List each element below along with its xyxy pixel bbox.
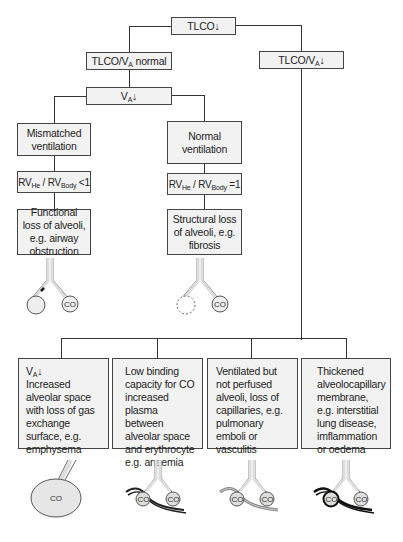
node-functional-loss-alveoli: Functional loss of alveoli, e.g. airway …	[17, 209, 91, 255]
node-label: RVHe / RVBody =1	[169, 178, 241, 191]
connector	[54, 96, 55, 124]
connector	[54, 155, 55, 171]
node-label: Mismatched ventilation	[22, 127, 86, 153]
node-label: VA↓	[121, 90, 137, 103]
root-node-tlco-decreased: TLCO↓	[171, 17, 236, 35]
co-label: CO	[50, 494, 62, 503]
node-rv-ratio-less-than-1: RVHe / RVBody <1	[17, 171, 91, 193]
co-label: CO	[214, 300, 226, 309]
cause-text: Ventilated but not perfused alveoli, los…	[216, 365, 292, 456]
cause-text: Thickened alveolocapillary membrane, e.g…	[317, 365, 386, 456]
connector	[129, 26, 172, 27]
node-label: TLCO/VA normal	[92, 55, 167, 68]
node-label: Functional loss of alveoli, e.g. airway …	[21, 206, 87, 258]
node-rv-ratio-equal-1: RVHe / RVBody =1	[167, 173, 242, 195]
connector	[61, 338, 346, 339]
node-label: TLCO/VA↓	[278, 54, 324, 67]
connector	[157, 338, 158, 358]
cause-interstitial-lung-disease: Thickened alveolocapillary membrane, e.g…	[301, 358, 391, 449]
node-label: TLCO↓	[187, 20, 219, 33]
unperfused-alveoli-icon: CO CO	[218, 460, 288, 522]
connector	[204, 194, 205, 209]
node-tlco-va-normal: TLCO/VA normal	[86, 52, 172, 70]
airway-obstruction-alveoli-icon: CO	[20, 258, 100, 320]
node-normal-ventilation: Normal ventilation	[167, 121, 242, 164]
node-label: RVHe / RVBody <1	[18, 176, 90, 189]
alveoli-capillary-icon: CO CO	[124, 460, 194, 522]
cause-heading: VA↓	[26, 365, 42, 378]
node-tlco-va-decreased: TLCO/VA↓	[259, 51, 344, 69]
connector	[129, 26, 130, 53]
co-label: CO	[64, 300, 76, 309]
connector	[251, 338, 252, 358]
node-structural-loss-alveoli: Structural loss of alveoli, e.g. fibrosi…	[167, 209, 242, 255]
co-label: CO	[168, 495, 180, 504]
connector	[346, 338, 347, 358]
co-label: CO	[232, 495, 244, 504]
connector	[301, 69, 302, 340]
connector	[204, 163, 205, 173]
co-label: CO	[138, 495, 150, 504]
connector	[61, 338, 62, 358]
connector	[204, 95, 205, 121]
node-va-decreased: VA↓	[86, 87, 172, 105]
cause-pulmonary-emboli: Ventilated but not perfused alveoli, los…	[207, 358, 298, 449]
node-label: Structural loss of alveoli, e.g. fibrosi…	[172, 213, 237, 252]
cause-anaemia: Low binding capacity for CO increased pl…	[112, 358, 203, 449]
thickened-membrane-icon: CO CO	[312, 460, 382, 522]
cause-emphysema: VA↓ Increased alveolar space with loss o…	[18, 358, 109, 449]
co-label: CO	[326, 495, 338, 504]
enlarged-alveolus-icon: CO	[28, 460, 88, 522]
co-label: CO	[262, 495, 274, 504]
lost-alveolus-icon: CO	[170, 258, 250, 320]
node-mismatched-ventilation: Mismatched ventilation	[17, 123, 91, 156]
connector	[171, 95, 204, 96]
cause-text: Increased alveolar space with loss of ga…	[26, 378, 103, 456]
connector	[54, 96, 87, 97]
cause-text: Low binding capacity for CO increased pl…	[125, 365, 197, 469]
node-label: Normal ventilation	[174, 130, 235, 156]
connector	[235, 25, 301, 26]
co-label: CO	[356, 495, 368, 504]
connector	[301, 25, 302, 52]
connector	[129, 69, 130, 87]
